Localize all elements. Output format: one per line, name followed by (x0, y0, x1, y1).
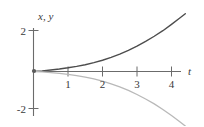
y-tick-label-negative-2: -2 (17, 103, 26, 115)
plot-canvas: x, y t 1 2 3 4 2 -2 (0, 0, 204, 126)
x-tick-label-3: 3 (134, 78, 140, 90)
x-tick-label-4: 4 (169, 78, 175, 90)
figure-container: x, y t 1 2 3 4 2 -2 (0, 0, 204, 126)
origin-point-marker (32, 69, 36, 73)
x-axis-label: t (188, 65, 192, 77)
y-tick-label-positive-2: 2 (21, 25, 27, 37)
x-tick-label-2: 2 (100, 78, 106, 90)
y-axis-label: x, y (37, 10, 53, 22)
curve-y-decay (34, 72, 186, 127)
x-tick-label-1: 1 (65, 78, 71, 90)
curve-x-growth (34, 14, 186, 72)
